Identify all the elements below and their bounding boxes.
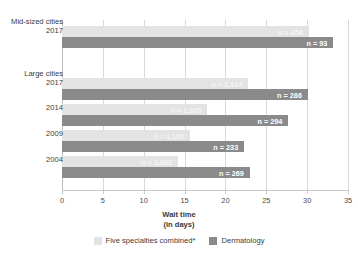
bar-dark: n = 294 [62, 115, 288, 126]
bar-chart: n = 454n = 93n = 1,414n = 286n = 1,305n … [0, 0, 358, 257]
legend-swatch-dark [209, 237, 217, 245]
legend-item[interactable]: Dermatology [209, 236, 264, 245]
legend-label: Five specialties combined* [106, 236, 196, 245]
tick-mark-35 [348, 190, 349, 194]
category-year: 2004 [0, 155, 63, 164]
bar-dark: n = 269 [62, 167, 250, 178]
bar-value-label: n = 286 [277, 90, 302, 99]
legend-swatch-light [94, 237, 102, 245]
bar-value-label: n = 269 [219, 168, 244, 177]
bar-value-label: n = 454 [278, 27, 303, 36]
bar-value-label: n = 233 [213, 142, 238, 151]
category-year: 2017 [0, 78, 63, 87]
tick-label-35: 35 [344, 196, 352, 205]
bar-light: n = 1,414 [62, 78, 248, 89]
bar-dark: n = 233 [62, 141, 244, 152]
bar-dark: n = 286 [62, 89, 308, 100]
bar-dark: n = 93 [62, 37, 333, 48]
category-label: 2009 [0, 129, 63, 138]
tick-mark-20 [225, 190, 226, 194]
bar-light: n = 1,062 [62, 156, 178, 167]
tick-label-30: 30 [303, 196, 311, 205]
bar-light: n = 454 [62, 26, 309, 37]
plot-area: n = 454n = 93n = 1,414n = 286n = 1,305n … [62, 20, 348, 190]
tick-label-25: 25 [262, 196, 270, 205]
category-group-name: Large cities [0, 69, 63, 78]
x-axis-line [62, 190, 348, 191]
tick-label-15: 15 [180, 196, 188, 205]
legend-item[interactable]: Five specialties combined* [94, 236, 196, 245]
bar-value-label: n = 1,062 [141, 157, 172, 166]
x-axis-title: Wait time (in days) [0, 210, 358, 229]
category-label: 2014 [0, 103, 63, 112]
gridline-35 [348, 20, 349, 190]
bar-light: n = 1,305 [62, 104, 207, 115]
chart-legend: Five specialties combined*Dermatology [0, 236, 358, 245]
category-label: 2004 [0, 155, 63, 164]
tick-label-0: 0 [60, 196, 64, 205]
tick-mark-25 [266, 190, 267, 194]
category-label: Large cities2017 [0, 69, 63, 88]
tick-label-10: 10 [140, 196, 148, 205]
category-year: 2009 [0, 129, 63, 138]
category-year: 2017 [0, 26, 63, 35]
x-axis-title-line1: Wait time [162, 210, 195, 219]
tick-mark-5 [103, 190, 104, 194]
category-group-name: Mid-sized cities [0, 17, 63, 26]
x-axis-title-line2: (in days) [0, 220, 358, 230]
tick-mark-0 [62, 190, 63, 194]
tick-label-5: 5 [101, 196, 105, 205]
tick-mark-30 [307, 190, 308, 194]
tick-mark-15 [185, 190, 186, 194]
bar-value-label: n = 1,162 [153, 131, 184, 140]
category-year: 2014 [0, 103, 63, 112]
bar-value-label: n = 1,414 [211, 79, 242, 88]
bar-value-label: n = 93 [306, 38, 327, 47]
bar-light: n = 1,162 [62, 130, 190, 141]
legend-label: Dermatology [221, 236, 264, 245]
tick-label-20: 20 [221, 196, 229, 205]
bar-value-label: n = 294 [257, 116, 282, 125]
tick-mark-10 [144, 190, 145, 194]
category-label: Mid-sized cities2017 [0, 17, 63, 36]
bar-value-label: n = 1,305 [170, 105, 201, 114]
